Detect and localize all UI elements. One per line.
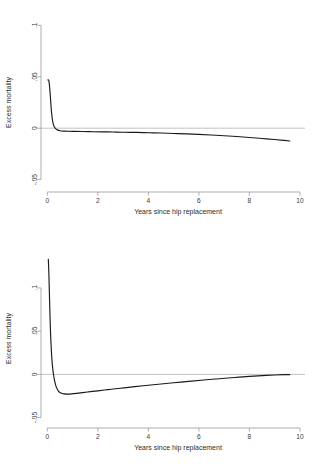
excess-mortality-curve-top <box>48 80 290 141</box>
excess-mortality-curve-bottom <box>48 259 290 394</box>
y-axis-title-top: Excess mortality <box>5 77 13 128</box>
x-tick-label-bottom-1: 2 <box>96 433 100 440</box>
y-tick-label-bottom-3: -.05 <box>31 412 38 424</box>
x-axis-bottom: 0246810 <box>45 428 303 440</box>
x-tick-label-bottom-3: 6 <box>197 433 201 440</box>
chart-svg-bottom: .1.050-.05 0246810 Years since hip repla… <box>0 236 314 472</box>
x-tick-label-top-3: 6 <box>197 197 201 204</box>
x-tick-label-top-0: 0 <box>45 197 49 204</box>
y-tick-label-bottom-2: 0 <box>31 372 38 376</box>
figure-excess-mortality: .1.050-.05 0246810 Years since hip repla… <box>0 0 314 472</box>
y-tick-label-top-0: .1 <box>31 22 38 28</box>
x-tick-label-top-4: 8 <box>248 197 252 204</box>
x-tick-label-bottom-0: 0 <box>45 433 49 440</box>
y-tick-label-top-2: 0 <box>31 126 38 130</box>
y-tick-label-bottom-0: .1 <box>31 285 38 291</box>
x-tick-label-top-5: 10 <box>296 197 304 204</box>
plot-area-bottom <box>41 259 305 394</box>
x-tick-label-top-2: 4 <box>147 197 151 204</box>
x-axis-top: 0246810 <box>45 192 303 204</box>
x-tick-label-bottom-2: 4 <box>147 433 151 440</box>
y-tick-label-top-1: .05 <box>31 72 38 81</box>
x-tick-label-top-1: 2 <box>96 197 100 204</box>
y-tick-label-bottom-1: .05 <box>31 326 38 335</box>
x-axis-title-top: Years since hip replacement <box>134 208 222 216</box>
chart-svg-top: .1.050-.05 0246810 Years since hip repla… <box>0 0 314 236</box>
chart-panel-top: .1.050-.05 0246810 Years since hip repla… <box>0 0 314 236</box>
y-axis-bottom: .1.050-.05 <box>31 285 41 423</box>
x-axis-title-bottom: Years since hip replacement <box>134 444 222 452</box>
y-axis-top: .1.050-.05 <box>31 22 41 185</box>
chart-panel-bottom: .1.050-.05 0246810 Years since hip repla… <box>0 236 314 472</box>
x-tick-label-bottom-4: 8 <box>248 433 252 440</box>
y-axis-title-bottom: Excess mortality <box>5 313 13 364</box>
y-tick-label-top-3: -.05 <box>31 174 38 186</box>
plot-area-top <box>41 80 305 141</box>
x-tick-label-bottom-5: 10 <box>296 433 304 440</box>
